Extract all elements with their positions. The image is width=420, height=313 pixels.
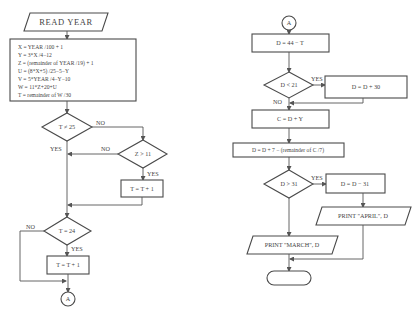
- compute-line-v: V = 5*YEAR /4−Y−10: [18, 76, 71, 82]
- process-d-plus-30-label: D = D + 30: [352, 83, 380, 90]
- right-flowchart: A D = 44 − T D < 21 YES NO D = D + 30 C …: [233, 16, 411, 285]
- arrow: [68, 197, 142, 205]
- decision-d-lt-21-no: NO: [273, 98, 282, 105]
- connector-a-in: A: [282, 16, 296, 30]
- terminal-end: [267, 271, 311, 285]
- compute-line-z: Z = (remainder of YEAR /19) + 1: [18, 60, 94, 67]
- decision-d-lt-21-yes: YES: [311, 75, 323, 82]
- left-flowchart: READ YEAR X = YEAR /100 + 1 Y = 3*X /4−1…: [10, 13, 167, 306]
- decision-d-gt-31: D > 31: [264, 170, 313, 198]
- process-increment-t-2: T = T + 1: [47, 256, 89, 274]
- process-d-44-minus-t-label: D = 44 − T: [276, 39, 304, 46]
- compute-line-t: T = remainder of W /30: [18, 92, 71, 98]
- arrow: [290, 98, 363, 103]
- process-d-plus-30: D = D + 30: [325, 76, 407, 98]
- decision-t-not-25-label: T ≠ 25: [59, 123, 75, 130]
- easter-date-flowchart: READ YEAR X = YEAR /100 + 1 Y = 3*X /4−1…: [0, 0, 420, 313]
- decision-d-lt-21: D < 21: [264, 72, 313, 98]
- decision-d-gt-31-yes: YES: [311, 174, 323, 181]
- decision-z-gt-11-yes: YES: [147, 170, 159, 177]
- decision-z-gt-11-no: NO: [101, 145, 110, 152]
- connector-a-out-label: A: [66, 295, 71, 302]
- output-print-march-label: PRINT "MARCH", D: [265, 241, 320, 248]
- decision-z-gt-11-label: Z > 11: [135, 150, 151, 157]
- output-print-april-label: PRINT "APRIL", D: [338, 212, 388, 219]
- process-d-plus-7-remainder-label: D = D + 7 − (remainder of C /7): [252, 147, 324, 154]
- compute-line-w: W = 11*Z+20+U: [18, 84, 57, 90]
- compute-line-u: U = (8*X+5) /25−5−Y: [18, 68, 69, 75]
- process-d-plus-7-remainder: D = D + 7 − (remainder of C /7): [233, 143, 344, 157]
- process-d-minus-31-label: D = D − 31: [341, 180, 369, 187]
- process-increment-t-2-label: T = T + 1: [56, 261, 79, 268]
- compute-line-x: X = YEAR /100 + 1: [18, 44, 63, 50]
- decision-z-gt-11: Z > 11: [118, 140, 167, 168]
- output-print-march: PRINT "MARCH", D: [247, 236, 338, 254]
- process-c-d-plus-y: C = D + Y: [252, 110, 329, 128]
- connector-a-out: A: [61, 292, 75, 306]
- decision-t-not-25-yes: YES: [50, 145, 62, 152]
- decision-t-not-25: T ≠ 25: [42, 113, 92, 141]
- compute-block: X = YEAR /100 + 1 Y = 3*X /4−12 Z = (rem…: [10, 39, 136, 101]
- decision-t-eq-24: T = 24: [44, 217, 91, 245]
- process-d-44-minus-t: D = 44 − T: [252, 34, 329, 52]
- process-c-d-plus-y-label: C = D + Y: [277, 115, 304, 122]
- read-year-label: READ YEAR: [39, 17, 93, 27]
- connector-a-in-label: A: [287, 19, 292, 26]
- compute-line-y: Y = 3*X /4−12: [18, 52, 52, 58]
- arrow-no: [92, 127, 143, 140]
- process-increment-t-1: T = T + 1: [121, 180, 163, 197]
- read-year-input: READ YEAR: [24, 13, 108, 31]
- decision-t-eq-24-no: NO: [26, 223, 35, 230]
- decision-d-gt-31-label: D > 31: [280, 180, 297, 187]
- decision-d-lt-21-label: D < 21: [280, 81, 297, 88]
- decision-t-not-25-no: NO: [96, 119, 105, 126]
- decision-t-eq-24-label: T = 24: [59, 227, 75, 234]
- process-d-minus-31: D = D − 31: [326, 174, 385, 193]
- decision-t-eq-24-yes: YES: [71, 245, 83, 252]
- output-print-april: PRINT "APRIL", D: [316, 207, 411, 225]
- process-increment-t-1-label: T = T + 1: [130, 185, 153, 192]
